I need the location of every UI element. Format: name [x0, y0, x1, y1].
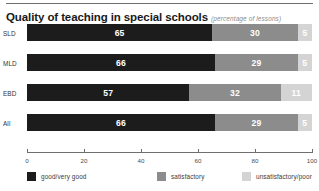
- x-axis-tick-label: 80: [252, 157, 259, 164]
- chart-legend: good/very goodsatisfactoryunsatisfactory…: [27, 170, 319, 182]
- x-axis-tick: [84, 149, 85, 153]
- bar-segment: 65: [27, 24, 212, 41]
- bar-segment: 57: [27, 84, 189, 101]
- chart-row: All66295: [0, 114, 319, 131]
- x-axis-tick: [312, 149, 313, 153]
- stacked-bar: 573211: [27, 84, 312, 101]
- x-axis-tick: [255, 149, 256, 153]
- stacked-bar: 65305: [27, 24, 312, 41]
- legend-swatch: [157, 172, 166, 181]
- chart-header: Quality of teaching in special schools(p…: [6, 7, 313, 21]
- chart-row: EBD573211: [0, 84, 319, 101]
- bar-segment: 30: [212, 24, 298, 41]
- x-axis-tick-label: 20: [81, 157, 88, 164]
- stacked-bar: 66295: [27, 114, 312, 131]
- x-axis-tick: [141, 149, 142, 153]
- row-label-mld: MLD: [3, 59, 24, 66]
- bar-segment: 5: [298, 54, 312, 71]
- legend-item: good/very good: [27, 170, 86, 182]
- bar-segment: 32: [189, 84, 280, 101]
- plot-area: SLD65305MLD66295EBD573211All66295: [0, 24, 319, 144]
- row-label-all: All: [3, 119, 24, 126]
- x-axis-tick-label: 40: [138, 157, 145, 164]
- legend-swatch: [27, 172, 36, 181]
- legend-label: satisfactory: [171, 173, 205, 180]
- chart-figure: Quality of teaching in special schools(p…: [0, 0, 319, 191]
- legend-item: unsatisfactory/poor: [242, 170, 312, 182]
- x-axis-tick: [27, 149, 28, 153]
- row-label-sld: SLD: [3, 29, 24, 36]
- legend-label: good/very good: [41, 173, 86, 180]
- legend-item: satisfactory: [157, 170, 205, 182]
- bar-segment: 29: [215, 54, 298, 71]
- x-axis: 020406080100: [27, 152, 312, 153]
- legend-label: unsatisfactory/poor: [256, 173, 312, 180]
- chart-title: Quality of teaching in special schools: [6, 11, 208, 23]
- bar-segment: 11: [281, 84, 312, 101]
- chart-row: MLD66295: [0, 54, 319, 71]
- chart-row: SLD65305: [0, 24, 319, 41]
- x-axis-tick-label: 100: [307, 157, 317, 164]
- bar-segment: 66: [27, 114, 215, 131]
- bar-segment: 5: [298, 114, 312, 131]
- x-axis-tick-label: 0: [25, 157, 28, 164]
- stacked-bar: 66295: [27, 54, 312, 71]
- legend-swatch: [242, 172, 251, 181]
- x-axis-tick: [198, 149, 199, 153]
- row-label-ebd: EBD: [3, 89, 24, 96]
- header-divider: [6, 3, 313, 4]
- bar-segment: 5: [298, 24, 312, 41]
- bar-segment: 29: [215, 114, 298, 131]
- x-axis-tick-label: 60: [195, 157, 202, 164]
- bar-segment: 66: [27, 54, 215, 71]
- chart-subtitle: (percentage of lessons): [211, 15, 281, 22]
